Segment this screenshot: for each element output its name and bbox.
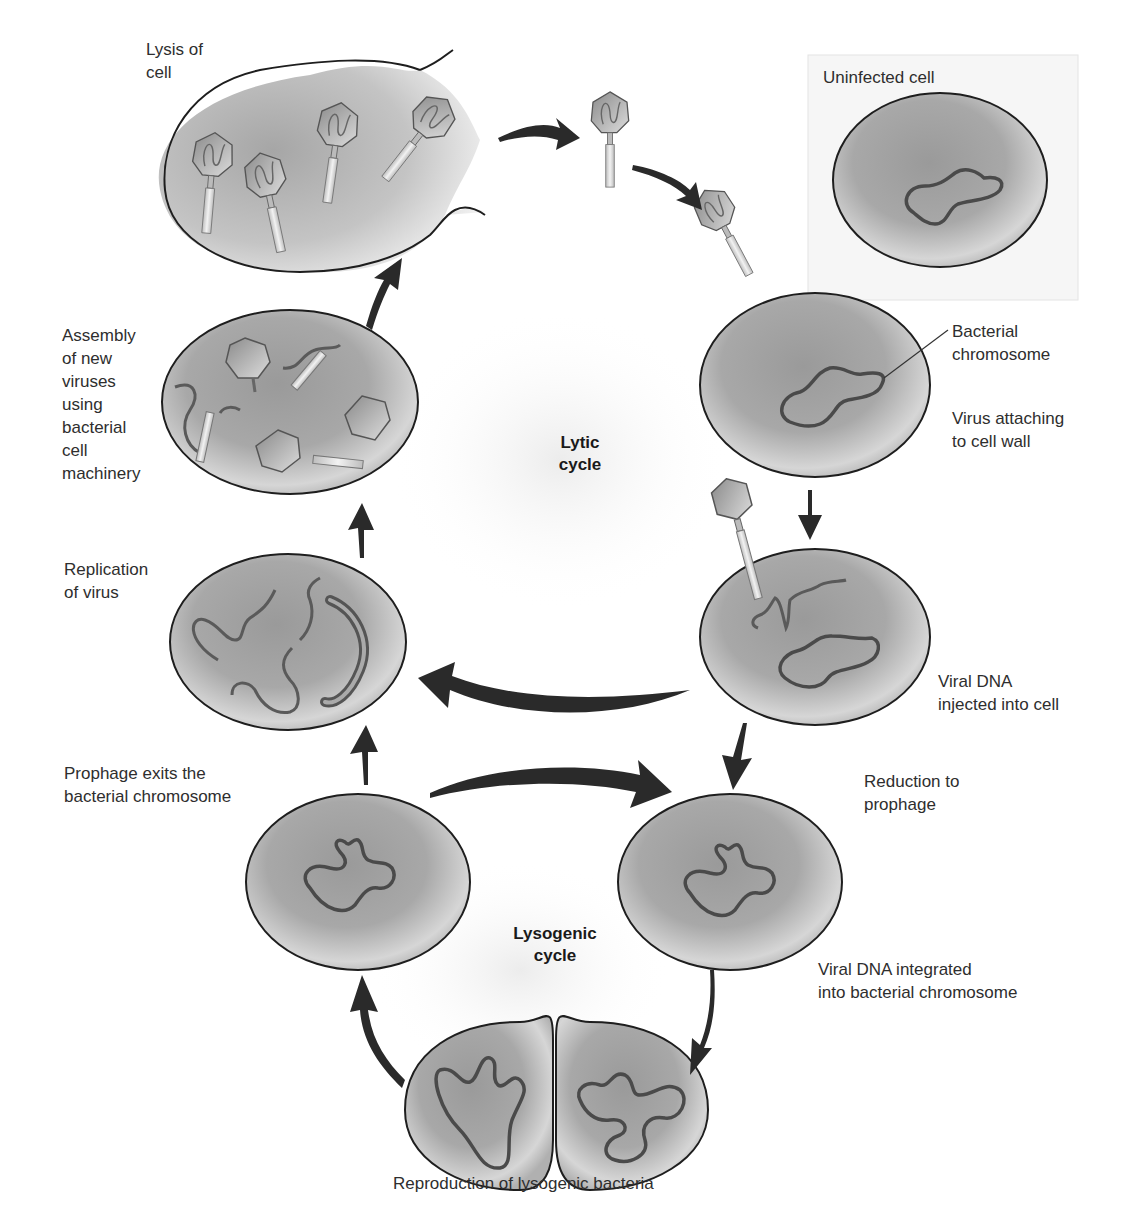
label-reproduction: Reproduction of lysogenic bacteria <box>393 1172 654 1195</box>
arrow-lysis-to-free <box>498 118 580 150</box>
label-uninfected-cell: Uninfected cell <box>823 66 935 89</box>
prophage-cell <box>618 794 842 970</box>
label-bacterial-chromosome: Bacterial chromosome <box>952 320 1050 366</box>
attaching-phage-icon <box>688 182 766 284</box>
label-reduction-to-prophage: Reduction to prophage <box>864 770 959 816</box>
uninfected-cell <box>833 93 1047 267</box>
lysis-cell <box>159 50 485 272</box>
attaching-cell <box>700 293 948 477</box>
lytic-cycle-title: Lytic cycle <box>540 432 620 476</box>
lytic-lysogenic-diagram <box>0 0 1138 1217</box>
label-viral-dna-integrated: Viral DNA integrated into bacterial chro… <box>818 958 1017 1004</box>
label-replication: Replication of virus <box>64 558 148 604</box>
arrow-exits-to-replication <box>350 725 378 785</box>
arrow-inject-to-prophage <box>722 723 752 790</box>
arrow-prophage-to-reproduction <box>690 970 715 1075</box>
assembly-cell <box>162 310 418 494</box>
label-prophage-exits: Prophage exits the bacterial chromosome <box>64 762 231 808</box>
injected-cell <box>700 474 930 725</box>
label-assembly: Assembly of new viruses using bacterial … <box>62 324 140 485</box>
label-virus-attaching: Virus attaching to cell wall <box>952 407 1064 453</box>
arrow-attach-to-inject <box>798 490 822 540</box>
lysogenic-cycle-title: Lysogenic cycle <box>495 923 615 967</box>
free-phage-icon <box>591 92 628 187</box>
replication-cell <box>170 554 406 730</box>
arrow-free-to-attach <box>632 165 702 210</box>
arrow-replication-to-assembly <box>348 503 374 558</box>
dividing-cells <box>405 1016 708 1190</box>
label-lysis-of-cell: Lysis of cell <box>146 38 203 84</box>
arrow-exits-to-prophage <box>430 760 672 808</box>
arrow-inject-to-replication <box>418 662 690 713</box>
arrow-assembly-to-lysis <box>366 258 402 330</box>
prophage-exits-cell <box>246 794 470 970</box>
label-viral-dna-injected: Viral DNA injected into cell <box>938 670 1059 716</box>
